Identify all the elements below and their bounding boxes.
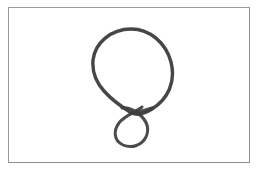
sketch-canvas [0,0,260,172]
caption-layer [0,0,260,172]
